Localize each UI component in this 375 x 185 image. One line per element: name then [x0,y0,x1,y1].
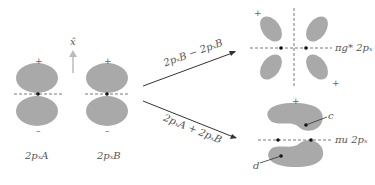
point-d-label: d [253,160,259,171]
plus-sign-bond: + [292,96,300,106]
x-axis-arrow [69,50,77,73]
orbital-diagram [0,0,375,185]
antibonding-label: πg* 2pₓ [335,42,372,53]
bonding-orbital [258,103,333,167]
plus-sign-b: + [104,56,112,66]
x-axis-label: x̂ [70,36,76,47]
plus-sign-tl: + [254,8,262,18]
minus-sign-a: – [36,126,41,136]
orbital-a [14,63,64,126]
minus-sign-b: – [105,126,110,136]
antibonding-orbital [250,8,332,87]
plus-sign-a: + [35,56,43,66]
plus-sign-br: + [332,78,340,88]
orbital-b [85,63,130,126]
bonding-label: πu 2pₓ [335,134,368,145]
point-c-label: c [328,110,334,121]
orbital-a-label: 2pₓA [25,150,49,161]
orbital-b-label: 2pₓB [97,150,121,161]
